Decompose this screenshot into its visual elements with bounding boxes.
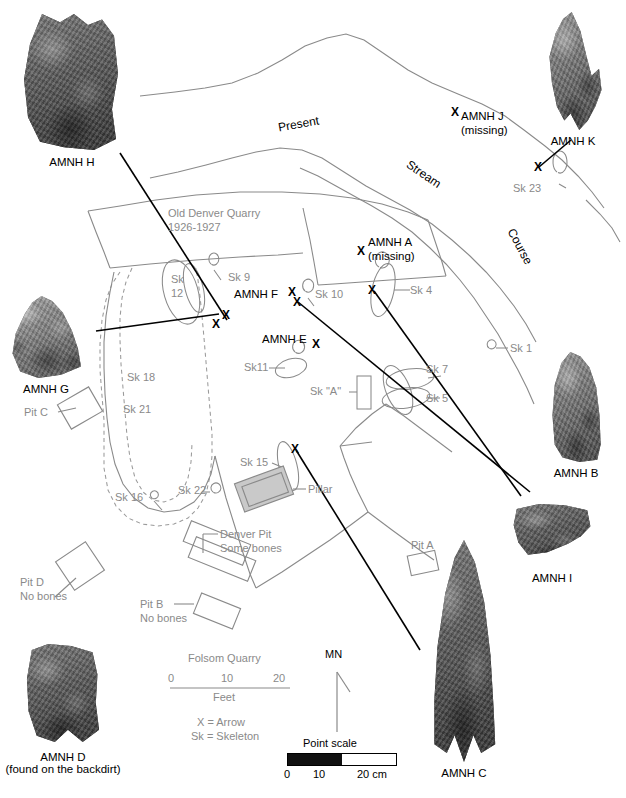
point-scale-light-half (342, 754, 396, 765)
amnh-a-note: (missing) (368, 250, 415, 263)
site-boundary-right (340, 404, 452, 560)
sk-11-label: Sk11 (244, 361, 268, 373)
amnh-e-label: AMNH E (262, 333, 307, 346)
sk-10-outline (303, 279, 314, 306)
point-scale-title: Point scale (303, 737, 357, 749)
amnh-a-label: AMNH A (368, 236, 412, 249)
specimen-amnh-h: AMNH H (22, 14, 122, 168)
denver-pit-label: Denver Pit (220, 528, 271, 540)
pits-and-pillar (55, 387, 439, 629)
specimen-amnh-g: AMNH G (8, 296, 84, 395)
point-scale-tick-20cm: 20 cm (357, 768, 387, 780)
point-scale-dark-half (288, 754, 342, 765)
map-label-quarry-years: 1926-1927 (168, 221, 221, 233)
sk-a-outline (357, 376, 371, 409)
sk-21-label: Sk 21 (123, 403, 151, 415)
specimen-amnh-b-image (548, 352, 604, 462)
legend-scale-units: Feet (213, 691, 235, 703)
sk-10-label: Sk 10 (315, 288, 343, 300)
specimen-amnh-d-label: AMNH D (22, 751, 104, 763)
legend-tick-10: 10 (221, 672, 233, 684)
pit-b-note: No bones (140, 612, 187, 624)
sk-1-label: Sk 1 (510, 342, 532, 354)
amnh-j-note: (missing) (461, 124, 508, 137)
pit-d-note: No bones (20, 590, 67, 602)
pit-d-shape (56, 542, 105, 590)
amnh-f-label: AMNH F (234, 288, 278, 301)
sk-22-outline (211, 483, 221, 493)
specimen-amnh-i-image (512, 504, 592, 566)
x-marker-sk4: X (368, 284, 376, 296)
legend-tick-0: 0 (168, 672, 174, 684)
specimen-amnh-d: AMNH D (found on the backdirt) (22, 644, 133, 775)
amnh-j-label: AMNH J (461, 110, 504, 123)
point-scale-tick-10: 10 (313, 768, 325, 780)
map-label-old-denver-quarry: Old Denver Quarry (168, 207, 260, 219)
sk-1-outline (487, 340, 496, 349)
sk-12-label-line1: Sk (171, 273, 184, 285)
north-arrow-head (337, 672, 350, 692)
sk-16-label: Sk 16 (115, 491, 143, 503)
specimen-amnh-g-image (8, 296, 84, 378)
x-marker-sk12b: X (212, 318, 220, 330)
x-marker-amnh-j: X (451, 106, 459, 118)
sk-12-label-line2: 12 (171, 287, 183, 299)
sk-23-label: Sk 23 (513, 182, 541, 194)
specimen-amnh-i: AMNH I (512, 504, 592, 584)
specimen-amnh-k-image (542, 12, 604, 130)
sk-18-label: Sk 18 (127, 371, 155, 383)
specimen-amnh-i-label: AMNH I (512, 572, 592, 584)
north-arrow (337, 672, 350, 732)
sk-4-label: Sk 4 (410, 284, 432, 296)
legend-scale-title: Folsom Quarry (188, 652, 261, 664)
point-scale-tick-0: 0 (284, 768, 290, 780)
specimen-amnh-d-note: (found on the backdirt) (0, 763, 133, 775)
specimen-amnh-h-label: AMNH H (22, 156, 122, 168)
specimen-amnh-g-label: AMNH G (8, 383, 84, 395)
x-marker-sk15: X (291, 443, 299, 455)
leader-amnh-g (96, 314, 219, 331)
sk-5-label: Sk 5 (426, 392, 448, 404)
specimen-amnh-h-image (22, 14, 122, 150)
sk-5b-outline (377, 361, 419, 418)
sk-9-label: Sk 9 (228, 271, 250, 283)
pillar-shape (234, 466, 293, 512)
specimen-amnh-c-label: AMNH C (425, 767, 503, 779)
x-marker-amnh-e: X (312, 338, 320, 350)
pit-b-shape (193, 593, 240, 629)
x-marker-sk23: X (534, 161, 542, 173)
specimen-amnh-c: AMNH C (425, 540, 503, 779)
sk-22-label: Sk 22 (178, 484, 206, 496)
sk-15-label: Sk 15 (240, 456, 268, 468)
pit-c-label: Pit C (24, 406, 48, 418)
legend-tick-20: 20 (273, 672, 285, 684)
x-marker-sk12a: X (222, 309, 230, 321)
denver-pit-note: Some bones (220, 542, 282, 554)
specimen-amnh-k: AMNH K (542, 12, 604, 147)
specimen-amnh-d-image (22, 644, 104, 746)
specimen-amnh-k-label: AMNH K (542, 135, 604, 147)
sk-a-label: Sk "A" (310, 385, 341, 397)
sk-7-label: Sk 7 (426, 363, 448, 375)
pillar-label: Pillar (308, 483, 332, 495)
figure-canvas: Old Denver Quarry 1926-1927 Present Stre… (0, 0, 626, 798)
sk-23-outline (553, 151, 567, 188)
specimen-amnh-b-label: AMNH B (548, 467, 604, 479)
pit-d-label: Pit D (20, 576, 44, 588)
legend-key-arrow: X = Arrow (197, 716, 245, 728)
sk-9-outline (209, 253, 221, 280)
point-scale-bar (287, 753, 397, 766)
x-marker-amnh-f2: X (293, 296, 301, 308)
quarry-area-outline (104, 272, 372, 588)
specimen-amnh-c-image (425, 540, 503, 762)
x-marker-amnh-a: X (357, 245, 365, 257)
legend-key-skeleton: Sk = Skeleton (191, 730, 259, 742)
pit-b-label: Pit B (140, 598, 163, 610)
north-label: MN (325, 648, 342, 660)
specimen-amnh-b: AMNH B (548, 352, 604, 479)
